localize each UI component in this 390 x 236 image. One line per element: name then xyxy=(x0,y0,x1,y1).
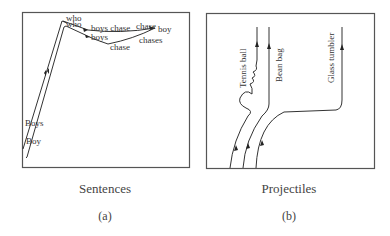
word-boy-left: Boy xyxy=(26,136,42,146)
panel-sentences: who who boys chase chase boy boys chase … xyxy=(23,13,190,224)
panel-b-frame xyxy=(207,14,375,169)
word-who-2: who xyxy=(66,19,82,29)
caption-sentences: Sentences xyxy=(79,181,131,196)
panel-projectiles: Tennis ball Bean bag Glass tumbler Proje… xyxy=(207,14,375,224)
figure: who who boys chase chase boy boys chase … xyxy=(0,0,390,236)
word-boys-left: Boys xyxy=(25,118,44,128)
caption-projectiles: Projectiles xyxy=(262,181,317,196)
label-tennis-ball: Tennis ball xyxy=(238,48,248,88)
label-glass-tumbler: Glass tumbler xyxy=(326,33,336,83)
word-chase-right: chase xyxy=(136,21,156,31)
trajectory-tennis-ball xyxy=(230,27,257,168)
sublabel-b: (b) xyxy=(282,209,296,223)
word-boy-right: boy xyxy=(158,24,172,34)
word-chases: chases xyxy=(139,35,163,45)
arrow-tennis-ball-up xyxy=(255,41,259,47)
word-boys-mid: boys xyxy=(91,32,109,42)
sublabel-a: (a) xyxy=(98,209,111,223)
label-bean-bag: Bean bag xyxy=(274,48,284,82)
arrow-glass-tumbler-up xyxy=(340,44,344,50)
arrow-bean-bag-up xyxy=(267,43,271,49)
word-chase-low: chase xyxy=(110,42,130,52)
